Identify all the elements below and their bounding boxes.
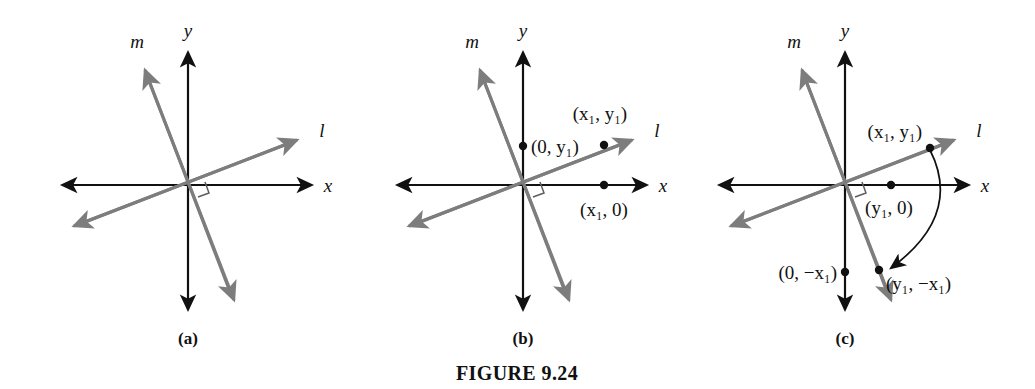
point-dot-y1-0-c (887, 181, 895, 189)
line-l-label-a: l (319, 120, 324, 141)
figure-canvas: x y l m (a) (0, y₁) (x₁, y₁) (x₁, 0) x y (0, 0, 1035, 389)
panel-label-b: (b) (513, 329, 534, 348)
panel-label-c: (c) (836, 329, 855, 348)
line-l-label-c: l (976, 120, 981, 141)
line-m-label-a: m (130, 31, 144, 52)
point-label-x1-y1-b: (x₁, y₁) (573, 103, 627, 125)
point-dot-0-negx1-c (841, 268, 849, 276)
point-label-x1-0-b: (x₁, 0) (580, 199, 628, 221)
point-label-y1-0-c: (y₁, 0) (865, 197, 913, 219)
x-axis-label-b: x (658, 175, 668, 196)
point-dot-x1-y1-b (600, 141, 608, 149)
point-dot-y1-negx1-c (875, 266, 883, 274)
y-axis-label-a: y (182, 20, 193, 41)
figure-caption: FIGURE 9.24 (456, 362, 578, 384)
x-axis-label-a: x (323, 175, 333, 196)
line-m-negative-ray-b (482, 76, 569, 300)
line-m-label-b: m (465, 31, 479, 52)
panel-label-a: (a) (178, 329, 198, 348)
line-m-label-c: m (787, 31, 801, 52)
point-dot-x1-y1-c (926, 144, 934, 152)
point-label-0-y1-b: (0, y₁) (531, 136, 579, 158)
point-dot-0-y1-b (519, 142, 527, 150)
line-l-label-b: l (654, 120, 659, 141)
panel-b: (0, y₁) (x₁, y₁) (x₁, 0) x y l m (b) (397, 20, 668, 348)
panel-c: (x₁, y₁) (y₁, 0) (0, −x₁) (y₁, −x₁) x y … (719, 20, 990, 348)
figure-9-24: x y l m (a) (0, y₁) (x₁, y₁) (x₁, 0) x y (0, 0, 1035, 389)
point-label-0-negx1-c: (0, −x₁) (779, 262, 838, 284)
point-label-y1-negx1-c: (y₁, −x₁) (886, 273, 951, 295)
panel-a: x y l m (a) (62, 20, 333, 348)
x-axis-label-c: x (980, 175, 990, 196)
point-dot-x1-0-b (600, 181, 608, 189)
y-axis-label-b: y (517, 20, 528, 41)
line-m-negative-ray-a (147, 76, 234, 300)
point-label-x1-y1-c: (x₁, y₁) (868, 121, 922, 143)
y-axis-label-c: y (839, 20, 850, 41)
